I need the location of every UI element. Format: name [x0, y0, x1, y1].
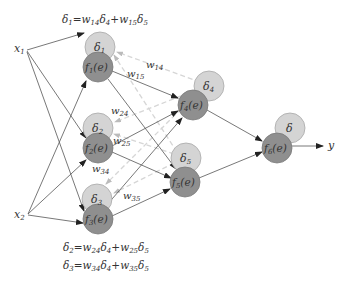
formula-delta3: δ3=w34δ4+w35δ5	[63, 259, 149, 273]
svg-text:f6(e): f6(e)	[263, 142, 287, 156]
node-1: δ1 f1(e)	[83, 32, 115, 82]
node-2: δ2 f2(e)	[83, 113, 113, 163]
svg-text:δ: δ	[286, 122, 293, 135]
neural-network-diagram: δ1 f1(e) δ2 f2(e) δ3 f3(e) δ4 f4(e) δ5 f…	[0, 0, 342, 283]
weight-w24: w24	[111, 105, 128, 118]
node-4: δ4 f4(e)	[178, 71, 224, 120]
weight-w35: w35	[123, 190, 141, 203]
edge-x1-f1	[27, 33, 84, 50]
edge-x1-f2	[27, 51, 86, 138]
node-3: δ3 f3(e)	[82, 184, 113, 234]
edge-f1-f5	[108, 79, 176, 169]
weight-w34: w34	[92, 163, 109, 176]
weight-w14: w14	[146, 59, 163, 72]
edge-x2-f1	[28, 81, 86, 214]
edge-f1-f4	[112, 71, 178, 98]
edge-f3-f5	[112, 189, 170, 216]
svg-text:f1(e): f1(e)	[84, 61, 108, 75]
edge-x2-f3	[28, 215, 83, 223]
node-5: δ5 f5(e)	[170, 143, 201, 197]
edge-f5-f6	[199, 152, 262, 178]
formula-delta2: δ2=w24δ4+w25δ5	[63, 241, 149, 255]
svg-text:f5(e): f5(e)	[171, 176, 195, 190]
weight-w15: w15	[127, 68, 145, 81]
edge-x1-f3	[27, 52, 84, 211]
formula-delta1: δ1=w14δ4+w15δ5	[62, 13, 148, 27]
edge-x2-f2	[28, 160, 86, 214]
edge-f4-f6	[207, 110, 262, 141]
svg-text:f2(e): f2(e)	[84, 142, 108, 156]
svg-text:f3(e): f3(e)	[84, 213, 108, 227]
input-x2-label: x2	[14, 208, 25, 222]
input-x1-label: x1	[14, 42, 25, 56]
svg-text:f4(e): f4(e)	[179, 99, 203, 113]
output-y-label: y	[327, 139, 335, 152]
node-6-output: δ f6(e)	[262, 113, 305, 163]
